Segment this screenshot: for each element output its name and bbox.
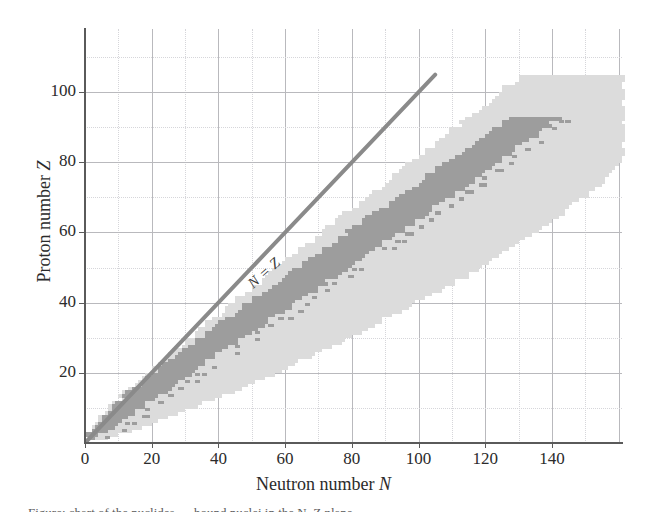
plot-area: N = Z [85,29,622,443]
y-axis-title: Proton number Z [34,82,55,362]
x-tick-mark [218,443,219,448]
x-axis-title-symbol: N [379,474,391,494]
x-tick-label: 80 [322,449,382,469]
x-axis-title-text: Neutron number [256,474,379,494]
y-tick-mark [79,92,84,93]
x-tick-mark [485,443,486,448]
x-tick-mark [85,443,86,448]
y-tick-mark [79,162,84,163]
nuclide-chart-figure: N = Z 020406080100120140 20406080100 Neu… [0,0,647,515]
x-tick-label: 100 [389,449,449,469]
x-tick-mark [285,443,286,448]
x-tick-label: 120 [455,449,515,469]
n-equals-z-line [85,29,622,443]
y-axis-title-symbol: Z [34,161,54,171]
x-tick-label: 0 [55,449,115,469]
x-tick-label: 20 [122,449,182,469]
y-axis-title-text: Proton number [34,171,54,283]
y-tick-mark [79,373,84,374]
figure-caption: Figure: chart of the nuclides — bound nu… [28,505,618,512]
x-tick-mark [152,443,153,448]
x-tick-label: 140 [522,449,582,469]
x-tick-mark [552,443,553,448]
x-tick-label: 40 [188,449,248,469]
x-tick-mark [419,443,420,448]
y-tick-label: 20 [28,362,76,382]
y-axis-line [84,28,86,444]
y-tick-mark [79,232,84,233]
x-tick-label: 60 [255,449,315,469]
x-axis-title: Neutron number N [0,474,647,495]
x-axis-line [84,442,623,444]
x-tick-mark [352,443,353,448]
y-tick-mark [79,303,84,304]
